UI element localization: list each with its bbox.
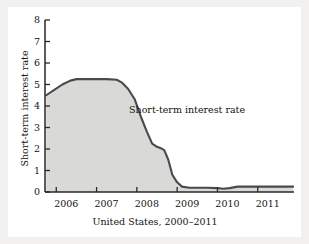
x-tick-label: 2010	[207, 199, 247, 209]
series-annotation-label: Short-term interest rate	[129, 104, 245, 115]
area-fill-shape	[46, 79, 293, 192]
area-fill	[46, 79, 293, 192]
y-tick-label: 0	[24, 187, 40, 197]
x-tick-label: 2011	[248, 199, 288, 209]
x-tick-label: 2009	[167, 199, 207, 209]
x-tick-label: 2007	[87, 199, 127, 209]
x-axis-caption: United States, 2000–2011	[30, 216, 280, 227]
y-tick-label: 8	[24, 15, 40, 25]
y-axis-title: Short-term interest rate	[19, 34, 30, 184]
x-tick-label: 2008	[127, 199, 167, 209]
figure-root: 012345678 200620072008200920102011 Short…	[0, 0, 309, 244]
x-tick-label: 2006	[46, 199, 86, 209]
